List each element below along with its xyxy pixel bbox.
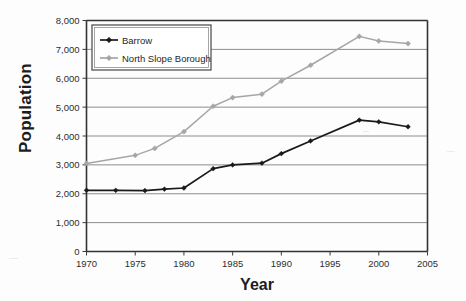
data-point [230,95,235,100]
data-point [308,139,313,144]
data-point [406,124,411,129]
y-tick-label: 1,000 [56,217,80,228]
y-tick-label: 4,000 [56,131,80,142]
y-tick-label: 6,000 [56,73,80,84]
y-tick-label: 8,000 [56,15,80,26]
x-tick-label: 1985 [222,258,243,269]
x-tick-label: 1990 [271,258,292,269]
data-point [113,188,118,193]
x-tick-label: 2000 [368,258,389,269]
legend-label: Barrow [122,35,152,46]
data-point [84,188,89,193]
y-tick-label: 0 [74,246,79,257]
y-tick-label: 2,000 [56,188,80,199]
legend-box: BarrowNorth Slope Borough [92,25,211,70]
x-tick-label: 1980 [173,258,194,269]
data-point [357,118,362,123]
x-tick-label: 1995 [320,258,341,269]
x-tick-label: 1975 [125,258,146,269]
data-point [405,41,410,46]
plot-canvas: 01,0002,0003,0004,0005,0006,0007,0008,00… [0,0,466,301]
chart-figure: Population Year 01,0002,0003,0004,0005,0… [0,0,466,301]
data-point [230,162,235,167]
data-point [133,153,138,158]
x-tick-label: 2005 [417,258,438,269]
data-point [376,119,381,124]
y-tick-label: 5,000 [56,102,80,113]
y-tick-label: 3,000 [56,159,80,170]
x-tick-label: 1970 [76,258,97,269]
x-tick-labels: 19701975198019851990199520002005 [76,258,438,269]
y-tick-label: 7,000 [56,44,80,55]
y-tick-labels: 01,0002,0003,0004,0005,0006,0007,0008,00… [56,15,80,257]
legend-label: North Slope Borough [122,53,211,64]
data-point [162,187,167,192]
data-point [376,38,381,43]
data-point [143,188,148,193]
